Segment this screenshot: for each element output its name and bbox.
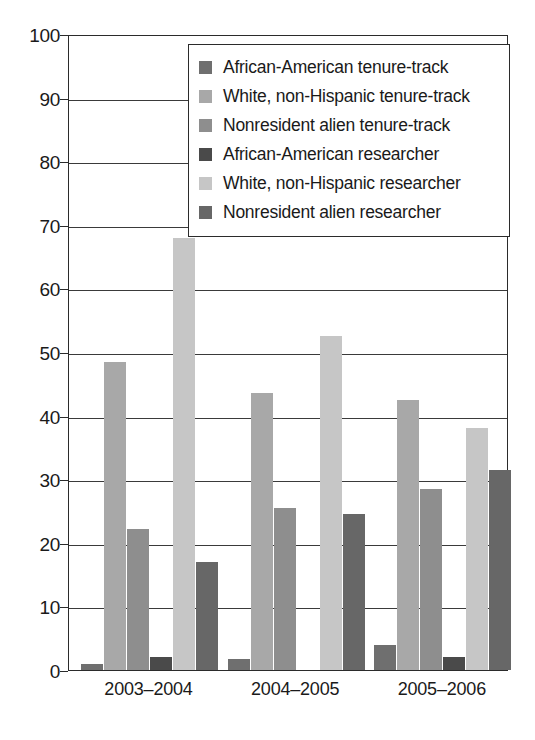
bar bbox=[274, 508, 296, 670]
y-tick-mark-90 bbox=[60, 99, 68, 100]
gridline-40 bbox=[69, 418, 507, 419]
bar bbox=[443, 657, 465, 670]
legend-item: White, non-Hispanic researcher bbox=[199, 169, 499, 198]
x-axis: 2003–20042004–20052005–2006 bbox=[68, 678, 508, 708]
legend-swatch-icon bbox=[199, 148, 212, 161]
y-tick-label-0: 0 bbox=[50, 662, 60, 681]
bar bbox=[173, 238, 195, 670]
y-tick-mark-0 bbox=[60, 671, 68, 672]
bar bbox=[466, 428, 488, 670]
bar bbox=[251, 393, 273, 670]
y-tick-mark-80 bbox=[60, 162, 68, 163]
legend-swatch-icon bbox=[199, 61, 212, 74]
legend-item-label: Nonresident alien tenure-track bbox=[223, 116, 450, 135]
y-tick-mark-40 bbox=[60, 417, 68, 418]
legend-item-label: African-American researcher bbox=[223, 145, 439, 164]
bar bbox=[127, 529, 149, 670]
grouped-bar-chart: 1009080706050403020100 2003–20042004–200… bbox=[0, 0, 535, 740]
legend-swatch-icon bbox=[199, 206, 212, 219]
x-tick-label-1: 2004–2005 bbox=[251, 678, 339, 700]
bar bbox=[374, 645, 396, 670]
y-tick-mark-10 bbox=[60, 607, 68, 608]
y-tick-mark-100 bbox=[60, 35, 68, 36]
legend-item: White, non-Hispanic tenure-track bbox=[199, 82, 499, 111]
chart-legend: African-American tenure-trackWhite, non-… bbox=[188, 44, 510, 237]
legend-item: African-American researcher bbox=[199, 140, 499, 169]
legend-item: African-American tenure-track bbox=[199, 53, 499, 82]
legend-item: Nonresident alien researcher bbox=[199, 198, 499, 227]
legend-item: Nonresident alien tenure-track bbox=[199, 111, 499, 140]
x-tick-label-2: 2005–2006 bbox=[398, 678, 486, 700]
bar bbox=[81, 664, 103, 670]
legend-swatch-icon bbox=[199, 177, 212, 190]
y-tick-mark-20 bbox=[60, 544, 68, 545]
y-tick-label-10: 10 bbox=[39, 598, 60, 617]
y-tick-label-40: 40 bbox=[39, 407, 60, 426]
y-tick-mark-50 bbox=[60, 353, 68, 354]
gridline-50 bbox=[69, 354, 507, 355]
legend-item-label: White, non-Hispanic researcher bbox=[223, 174, 461, 193]
y-tick-label-30: 30 bbox=[39, 471, 60, 490]
gridline-60 bbox=[69, 290, 507, 291]
bar bbox=[420, 489, 442, 670]
bar bbox=[104, 362, 126, 670]
gridline-30 bbox=[69, 481, 507, 482]
y-tick-label-20: 20 bbox=[39, 534, 60, 553]
bar bbox=[196, 562, 218, 670]
y-tick-mark-60 bbox=[60, 289, 68, 290]
y-tick-label-60: 60 bbox=[39, 280, 60, 299]
legend-item-label: White, non-Hispanic tenure-track bbox=[223, 87, 470, 106]
bar bbox=[228, 659, 250, 670]
legend-swatch-icon bbox=[199, 90, 212, 103]
y-tick-label-70: 70 bbox=[39, 216, 60, 235]
legend-item-label: African-American tenure-track bbox=[223, 58, 448, 77]
legend-swatch-icon bbox=[199, 119, 212, 132]
y-axis: 1009080706050403020100 bbox=[0, 35, 60, 671]
y-tick-label-50: 50 bbox=[39, 344, 60, 363]
x-tick-label-0: 2003–2004 bbox=[104, 678, 192, 700]
y-tick-mark-70 bbox=[60, 226, 68, 227]
y-tick-mark-30 bbox=[60, 480, 68, 481]
bar bbox=[343, 514, 365, 670]
bar bbox=[489, 470, 511, 670]
y-tick-label-90: 90 bbox=[39, 89, 60, 108]
legend-item-label: Nonresident alien researcher bbox=[223, 203, 441, 222]
bar bbox=[320, 336, 342, 670]
bar bbox=[150, 657, 172, 670]
y-tick-label-80: 80 bbox=[39, 153, 60, 172]
y-tick-label-100: 100 bbox=[29, 26, 60, 45]
bar bbox=[397, 400, 419, 670]
